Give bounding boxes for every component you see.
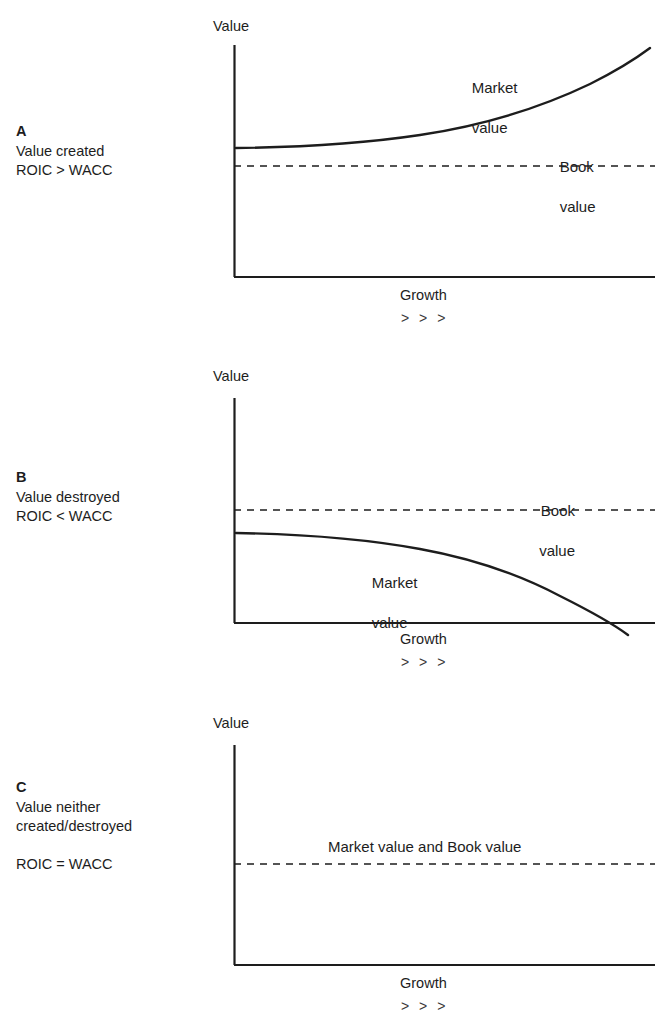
panel-b-x-axis-label: Growth — [400, 631, 447, 647]
panel-a-book-value-label: Book value — [543, 137, 596, 237]
panel-c-combined-value-label: Market value and Book value — [328, 837, 521, 857]
panel-a-market-value-curve — [236, 48, 650, 148]
panel-a-market-value-label-line-1: Market — [472, 79, 518, 96]
panel-a-book-value-label-line-2: value — [560, 198, 596, 215]
panel-b-market-value-label-line-1: Market — [372, 574, 418, 591]
panel-b-book-value-label: Book value — [455, 481, 575, 581]
panel-b-book-value-label-line-1: Book — [541, 502, 575, 519]
panel-c-x-axis-label: Growth — [400, 975, 447, 991]
panel-a-growth-arrows: > > > — [401, 310, 448, 326]
panel-c: C Value neither created/destroyed ROIC =… — [0, 700, 655, 1036]
panel-c-growth-arrows: > > > — [401, 998, 448, 1014]
panel-a-x-axis-label: Growth — [400, 287, 447, 303]
panel-a: A Value created ROIC > WACC Value Market… — [0, 0, 655, 350]
panel-b-growth-arrows: > > > — [401, 654, 448, 670]
panel-a-market-value-label: Market value — [455, 58, 518, 158]
panel-b-book-value-label-line-2: value — [539, 542, 575, 559]
panel-b-market-value-label-line-2: value — [372, 614, 408, 631]
panel-a-market-value-label-line-2: value — [472, 119, 508, 136]
panel-a-book-value-label-line-1: Book — [560, 158, 594, 175]
panel-b: B Value destroyed ROIC < WACC Value Book… — [0, 353, 655, 698]
